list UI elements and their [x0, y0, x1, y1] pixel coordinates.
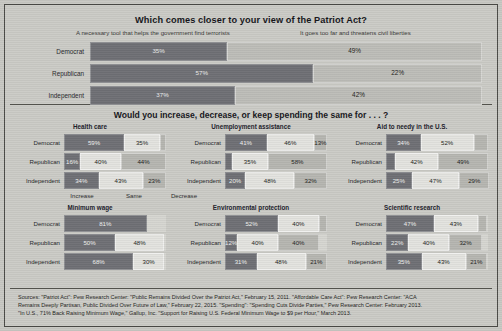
legend-decrease: Decrease	[160, 192, 208, 199]
spending-row-top: Health careDemocrat59%35%Republican16%40…	[10, 123, 492, 191]
patriot-act-value-too-far: 42%	[352, 91, 365, 98]
spending-segment-same: 43%	[99, 172, 143, 189]
spending-row: Independent35%43%21%	[336, 253, 488, 270]
patriot-act-row-label: Independent	[10, 92, 90, 99]
spending-panel-heading: Health care	[14, 123, 166, 132]
spending-value-same: 42%	[395, 158, 438, 165]
patriot-act-value-necessary: 37%	[156, 91, 168, 98]
spending-row-label: Independent	[175, 177, 225, 184]
spending-row: Democrat41%46%13%	[175, 134, 327, 151]
spending-value-same: 43%	[99, 177, 143, 184]
spending-track: 34%43%23%	[64, 172, 166, 189]
spending-row: Democrat81%	[14, 215, 166, 232]
spending-segment-increase: 81%	[64, 215, 147, 232]
spending-segment-same: 30%	[133, 253, 164, 270]
spending-segment-same: 47%	[412, 172, 460, 189]
spending-row: Republican35%58%	[175, 153, 327, 170]
spending-segment-decrease	[474, 134, 488, 151]
spending-value-same: 40%	[80, 158, 121, 165]
spending-segment-increase	[225, 153, 232, 170]
spending-row-label: Republican	[336, 239, 386, 246]
patriot-act-value-necessary: 35%	[152, 47, 164, 54]
spending-value-same: 48%	[257, 258, 306, 265]
patriot-act-track: 35%49%	[90, 42, 482, 61]
spending-value-increase: 81%	[64, 220, 147, 227]
spending-value-same: 43%	[434, 220, 478, 227]
spending-value-decrease: 49%	[438, 158, 488, 165]
spending-value-decrease: 21%	[306, 258, 327, 265]
spending-segment-decrease: 13%	[314, 134, 327, 151]
spending-row: Independent34%43%23%	[14, 172, 166, 189]
spending-row-label: Independent	[336, 177, 386, 184]
spending-value-decrease: 32%	[449, 239, 482, 246]
spending-value-increase: 22%	[386, 239, 408, 246]
source-line-1: Sources: "Patriot Act": Pew Research Cen…	[18, 293, 484, 301]
spending-segment-decrease: 32%	[449, 234, 482, 251]
spending-panel-heading: Unemployment assistance	[175, 123, 327, 132]
spending-value-increase: 31%	[225, 258, 257, 265]
spending-value-increase: 16%	[64, 158, 80, 165]
patriot-act-rows: Democrat35%49%Republican57%22%Independen…	[10, 42, 492, 105]
spending-value-increase: 59%	[64, 139, 124, 146]
spending-segment-increase	[386, 153, 395, 170]
legend-increase: Increase	[56, 192, 108, 199]
spending-value-increase: 41%	[225, 139, 267, 146]
spending-segment-decrease: 44%	[121, 153, 166, 170]
spending-segment-decrease: 21%	[306, 253, 327, 270]
spending-value-same: 35%	[124, 139, 160, 146]
spending-value-same: 48%	[115, 239, 164, 246]
patriot-act-legend: A necessary tool that helps the governme…	[10, 29, 492, 40]
spending-track: 59%35%	[64, 134, 166, 151]
spending-segment-increase: 16%	[64, 153, 80, 170]
source-line-3: "In U.S., 71% Back Raising Minimum Wage,…	[18, 309, 484, 317]
spending-value-decrease: 13%	[314, 139, 327, 146]
spending-track: 42%49%	[386, 153, 488, 170]
spending-segment-increase: 59%	[64, 134, 124, 151]
spending-segment-same: 48%	[257, 253, 306, 270]
spending-panel: Unemployment assistanceDemocrat41%46%13%…	[175, 123, 327, 191]
spending-segment-decrease: 49%	[438, 153, 488, 170]
spending-value-decrease: 21%	[466, 258, 487, 265]
spending-value-same: 35%	[232, 158, 268, 165]
spending-segment-increase: 35%	[386, 253, 422, 270]
spending-value-same: 48%	[245, 177, 294, 184]
spending-row: Democrat59%35%	[14, 134, 166, 151]
spending-value-decrease: 40%	[278, 239, 319, 246]
spending-track: 41%46%13%	[225, 134, 327, 151]
spending-segment-increase: 22%	[386, 234, 408, 251]
spending-segment-same: 46%	[267, 134, 314, 151]
spending-row-label: Democrat	[175, 139, 225, 146]
spending-row-label: Independent	[14, 177, 64, 184]
spending-segment-decrease	[319, 215, 327, 232]
patriot-act-row: Republican57%22%	[10, 64, 492, 83]
spending-panel-heading: Scientific research	[336, 204, 488, 213]
sources-box: Sources: "Patriot Act": Pew Research Cen…	[10, 288, 492, 322]
patriot-act-row: Democrat35%49%	[10, 42, 492, 61]
poster-frame: Which comes closer to your view of the P…	[4, 4, 498, 327]
patriot-act-track: 57%22%	[90, 64, 482, 83]
patriot-act-row-label: Democrat	[10, 48, 90, 55]
spending-segment-decrease: 29%	[459, 172, 489, 189]
spending-row-label: Republican	[336, 158, 386, 165]
spending-value-increase: 52%	[225, 220, 278, 227]
spending-segment-same: 40%	[408, 234, 449, 251]
spending-row-label: Independent	[336, 258, 386, 265]
spending-value-increase: 35%	[386, 258, 422, 265]
spending-value-increase: 25%	[386, 177, 412, 184]
spending-row-label: Democrat	[336, 139, 386, 146]
patriot-act-row: Independent37%42%	[10, 86, 492, 105]
spending-panel: Aid to needy in the U.S.Democrat34%52%Re…	[336, 123, 488, 191]
patriot-act-value-too-far: 22%	[391, 69, 404, 76]
spending-row-label: Independent	[175, 258, 225, 265]
spending-segment-same: 35%	[232, 153, 268, 170]
spending-value-same: 46%	[267, 139, 314, 146]
patriot-act-title: Which comes closer to your view of the P…	[10, 15, 492, 25]
spending-row-label: Democrat	[14, 220, 64, 227]
spending-segment-same: 42%	[395, 153, 438, 170]
spending-value-same: 52%	[421, 139, 474, 146]
spending-panel: Scientific researchDemocrat47%43%Republi…	[336, 204, 488, 272]
spending-segment-decrease	[478, 215, 487, 232]
spending-track: 25%47%29%	[386, 172, 488, 189]
patriot-act-value-too-far: 49%	[348, 47, 361, 54]
spending-value-increase: 12%	[225, 239, 237, 246]
